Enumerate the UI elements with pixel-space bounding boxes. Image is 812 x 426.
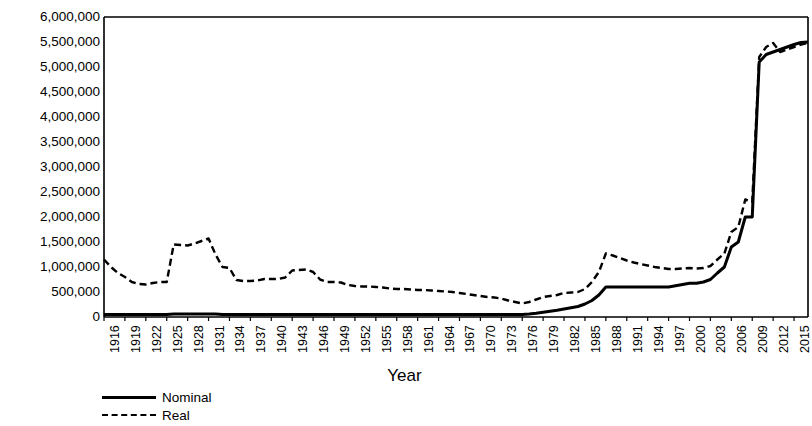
- x-tick-label: 1946: [318, 325, 331, 353]
- x-tick-label: 2003: [715, 325, 728, 353]
- legend-item-nominal: Nominal: [100, 388, 212, 406]
- legend-label-real: Real: [162, 408, 190, 423]
- plot-frame: [104, 17, 808, 317]
- legend-line-dashed-icon: [100, 410, 158, 420]
- x-tick-label: 2015: [799, 325, 812, 353]
- x-tick-label: 1970: [485, 325, 498, 353]
- x-tick-label: 2006: [736, 325, 749, 353]
- x-tick-label: 2000: [695, 325, 708, 353]
- x-tick-label: 1949: [339, 325, 352, 353]
- x-tick-label: 1931: [214, 325, 227, 353]
- x-tick-label: 1982: [569, 325, 582, 353]
- x-tick-label: 1934: [234, 325, 247, 353]
- x-tick-label: 1955: [381, 325, 394, 353]
- x-axis-title: Year: [0, 366, 809, 386]
- chart-legend: Nominal Real: [100, 388, 212, 424]
- x-tick-label: 1943: [297, 325, 310, 353]
- x-tick-label: 2012: [778, 325, 791, 353]
- series-line-nominal: [104, 42, 808, 315]
- x-tick-label: 1985: [590, 325, 603, 353]
- x-tick-label: 1994: [653, 325, 666, 353]
- x-tick-label: 1961: [423, 325, 436, 353]
- x-tick-label: 1952: [360, 325, 373, 353]
- x-tick-label: 1928: [193, 325, 206, 353]
- series-line-real: [104, 43, 808, 304]
- x-tick-label: 1940: [276, 325, 289, 353]
- x-tick-label: 1964: [444, 325, 457, 353]
- x-tick-label: 1958: [402, 325, 415, 353]
- x-tick-label: 1988: [611, 325, 624, 353]
- x-tick-label: 1976: [527, 325, 540, 353]
- x-tick-label: 2009: [757, 325, 770, 353]
- legend-line-solid-icon: [100, 392, 158, 402]
- legend-label-nominal: Nominal: [162, 390, 212, 405]
- x-tick-label: 1916: [109, 325, 122, 353]
- x-tick-label: 1922: [151, 325, 164, 353]
- x-tick-label: 1973: [506, 325, 519, 353]
- legend-item-real: Real: [100, 406, 212, 424]
- x-tick-label: 1925: [172, 325, 185, 353]
- x-tick-label: 1979: [548, 325, 561, 353]
- x-tick-label: 1997: [674, 325, 687, 353]
- x-tick-label: 1991: [632, 325, 645, 353]
- x-tick-label: 1967: [464, 325, 477, 353]
- x-tick-label: 1937: [255, 325, 268, 353]
- x-tick-label: 1919: [130, 325, 143, 353]
